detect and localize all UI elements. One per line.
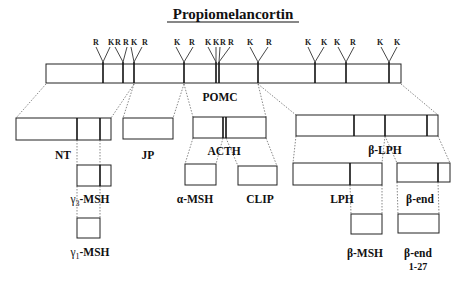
svg-text:K: K [334, 38, 341, 47]
pomc-label: POMC [202, 91, 237, 103]
clip-box [238, 166, 277, 185]
gamma3-msh-box [77, 165, 111, 186]
alpha-msh-box [185, 164, 216, 185]
svg-text:K: K [377, 38, 384, 47]
beta-end-1-27-range: 1-27 [409, 261, 427, 272]
beta-end-box [397, 163, 450, 182]
gamma3-msh-label: γ3-MSH [69, 193, 109, 208]
beta-msh-label: β-MSH [347, 247, 383, 260]
svg-text:K: K [247, 38, 254, 47]
svg-text:R: R [350, 38, 356, 47]
svg-text:K: K [205, 38, 212, 47]
cleavage-site-legs [96, 47, 397, 62]
svg-text:K: K [321, 38, 328, 47]
acth-label: ACTH [207, 145, 240, 157]
svg-text:R: R [228, 38, 234, 47]
pomc-bar [46, 62, 401, 83]
diagram-title: Propiomelancortin [173, 6, 294, 22]
svg-text:R: R [115, 38, 121, 47]
gamma1-msh-box [77, 218, 100, 238]
svg-text:R: R [189, 38, 195, 47]
nt-box [16, 118, 111, 140]
beta-lph-label: β-LPH [368, 144, 402, 157]
lph-box [293, 163, 382, 185]
gamma1-msh-label: γ1-MSH [69, 246, 109, 261]
svg-text:K: K [305, 38, 312, 47]
beta-end-1-27-label: β-end [404, 247, 432, 260]
lph-label: LPH [330, 193, 354, 205]
acth-box [193, 117, 266, 138]
svg-text:R: R [220, 38, 226, 47]
alpha-msh-label: α-MSH [177, 193, 213, 205]
cleavage-site-labels: R K R R K R K R K K R R K R K K K R K K [93, 38, 401, 47]
svg-text:K: K [131, 38, 138, 47]
svg-text:K: K [174, 38, 181, 47]
jp-label: JP [142, 149, 155, 161]
beta-msh-box [351, 214, 382, 234]
svg-text:R: R [93, 38, 99, 47]
beta-end-label: β-end [406, 193, 434, 206]
beta-end-1-27-box [398, 214, 439, 233]
svg-text:K: K [213, 38, 220, 47]
clip-label: CLIP [246, 193, 273, 205]
pomc-processing-diagram: Propiomelancortin R K R R K R K R [0, 0, 466, 285]
jp-box [123, 118, 173, 139]
svg-text:K: K [108, 38, 115, 47]
nt-label: NT [55, 149, 71, 161]
beta-lph-box [296, 115, 438, 136]
svg-text:R: R [142, 38, 148, 47]
svg-text:R: R [123, 38, 129, 47]
svg-text:K: K [394, 38, 401, 47]
svg-text:R: R [266, 38, 272, 47]
